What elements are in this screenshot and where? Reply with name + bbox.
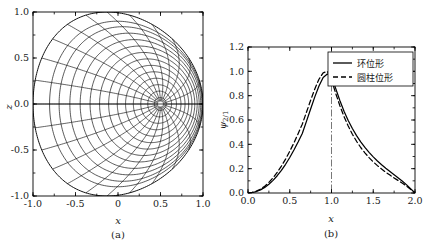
panel-b-xtick-2: 1.0 <box>324 195 339 206</box>
radial-line-23 <box>163 105 200 128</box>
radial-grid-lines <box>33 12 203 196</box>
panel-b-ytick-labels: 0.00.20.40.60.81.01.2 <box>229 41 244 198</box>
panel-b-ytick-5: 1.0 <box>229 66 244 77</box>
panel-b-yaxis-subscript: 2/1 <box>222 111 230 122</box>
panel-b-xtick-labels: 0.00.51.01.52.0 <box>240 195 422 206</box>
panel-b-xaxis-title: x <box>328 213 334 224</box>
panel-a-xtick-1: -0.5 <box>66 198 84 209</box>
panel-b-yaxis-title: ψ2/1 <box>217 111 230 130</box>
panel-a-ytick-3: 0.5 <box>14 52 29 63</box>
panel-b-legend: 环位形 圆柱位形 <box>328 52 413 86</box>
panel-b-ytick-3: 0.6 <box>229 114 244 125</box>
radial-line-11 <box>35 80 158 103</box>
figure-two-panel: -1.0-0.500.51.0 -1.0-0.50.00.51.0 x z (a… <box>0 0 429 240</box>
panel-a-ytick-1: -0.5 <box>11 144 29 155</box>
panel-a-plot-area: -1.0-0.500.51.0 -1.0-0.50.00.51.0 x z (a… <box>3 6 211 240</box>
panel-b-xtick-4: 2.0 <box>407 195 422 206</box>
radial-line-4 <box>152 24 169 101</box>
panel-a-svg: -1.0-0.500.51.0 -1.0-0.50.00.51.0 x z (a… <box>0 0 215 240</box>
panel-b-ytick-1: 0.2 <box>229 163 244 174</box>
panel-a-xtick-4: 1.0 <box>195 198 210 209</box>
panel-a-yaxis-title: z <box>3 104 14 111</box>
panel-b-ytick-6: 1.2 <box>229 41 244 52</box>
panel-a-xtick-3: 0.5 <box>153 198 168 209</box>
panel-b: 0.00.51.01.52.0 0.00.20.40.60.81.01.2 环位… <box>215 0 429 240</box>
legend-label-1: 圆柱位形 <box>357 72 393 83</box>
radial-line-1 <box>163 80 200 103</box>
panel-a-ytick-2: 0.0 <box>14 98 29 109</box>
panel-a-xtick-labels: -1.0-0.500.51.0 <box>24 198 211 209</box>
panel-a-xtick-2: 0 <box>115 198 121 209</box>
panel-b-ytick-2: 0.4 <box>229 139 244 150</box>
panel-a-ytick-labels: -1.0-0.50.00.51.0 <box>11 6 29 201</box>
panel-b-xtick-1: 0.5 <box>282 195 297 206</box>
radial-line-13 <box>35 105 158 128</box>
radial-line-20 <box>152 106 169 183</box>
panel-a-ytick-4: 1.0 <box>14 6 29 17</box>
panel-a-ytick-0: -1.0 <box>11 190 29 201</box>
svg-text:ψ2/1: ψ2/1 <box>217 111 230 130</box>
panel-a-caption: (a) <box>111 229 125 240</box>
panel-b-xtick-3: 1.5 <box>366 195 381 206</box>
panel-a-xaxis-title: x <box>115 215 121 226</box>
panel-b-svg: 0.00.51.01.52.0 0.00.20.40.60.81.01.2 环位… <box>215 0 429 240</box>
legend-label-0: 环位形 <box>357 58 384 69</box>
panel-a: -1.0-0.500.51.0 -1.0-0.50.00.51.0 x z (a… <box>0 0 215 240</box>
panel-b-caption: (b) <box>324 228 338 239</box>
panel-b-ytick-0: 0.0 <box>229 187 244 198</box>
panel-b-ytick-4: 0.8 <box>229 90 244 101</box>
